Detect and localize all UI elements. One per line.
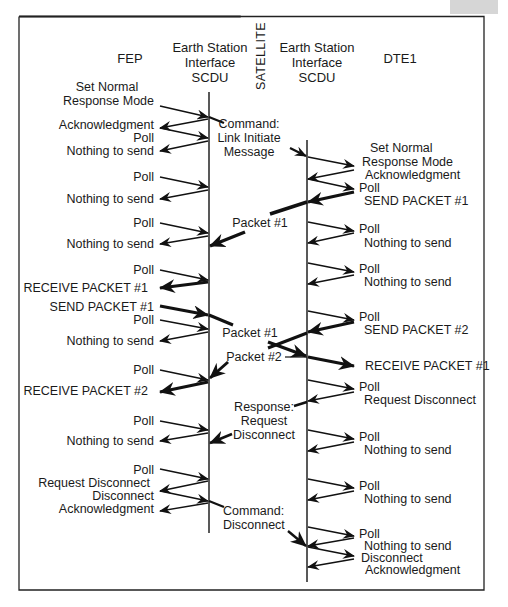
left-msg-nothing: Nothing to send [20, 434, 154, 448]
right-msg-nothing: Nothing to send [364, 443, 484, 457]
header-fep: FEP [100, 51, 160, 66]
right-msg-poll: Poll [359, 222, 419, 236]
msg-line: Message [212, 145, 286, 159]
right-msg-nothing: Nothing to send [364, 275, 484, 289]
right-msg-request-disconnect: Request Disconnect [364, 393, 484, 407]
header-earth-station-left: Earth Station Interface SCDU [160, 40, 260, 85]
right-msg-poll: Poll [359, 262, 419, 276]
right-msg-send-packet-2: SEND PACKET #2 [364, 323, 484, 337]
header-line: Earth Station [272, 40, 362, 55]
right-msg-nothing: Nothing to send [364, 236, 484, 250]
header-satellite: SATELLITE [254, 22, 268, 90]
right-msg-acknowledgment: Acknowledgment [365, 563, 485, 577]
sat-msg-link-initiate: Command: Link Initiate Message [212, 117, 286, 159]
header-line: Interface [272, 55, 362, 70]
msg-line: Set Normal [40, 80, 154, 94]
diagram-canvas: FEP Earth Station Interface SCDU SATELLI… [0, 0, 508, 607]
right-msg-nothing: Nothing to send [364, 492, 484, 506]
msg-line: Response Mode [40, 94, 154, 108]
header-line: Earth Station [160, 40, 260, 55]
left-msg-request-disconnect: Request Disconnect [20, 476, 150, 490]
left-msg-poll: Poll [20, 263, 154, 277]
sat-msg-packet-1-up: Packet #1 [230, 216, 290, 230]
msg-line: Request [232, 414, 296, 428]
msg-line: Command: [223, 504, 293, 518]
header-line: Interface [160, 55, 260, 70]
left-msg-disconnect: Disconnect [20, 489, 154, 503]
left-msg-poll: Poll [20, 313, 154, 327]
left-msg-ack: Acknowledgment [20, 118, 154, 132]
left-msg-poll: Poll [20, 131, 154, 145]
right-msg-poll: Poll [359, 430, 419, 444]
right-msg-poll: Poll [359, 479, 419, 493]
right-msg-receive-packet-1: RECEIVE PACKET #1 [365, 359, 490, 373]
left-msg-poll: Poll [20, 170, 154, 184]
msg-line: Disconnect [232, 428, 296, 442]
sat-msg-packet-1-down: Packet #1 [220, 326, 280, 340]
msg-line: Response: [232, 400, 296, 414]
sat-msg-command-disconnect: Command: Disconnect [223, 504, 293, 532]
left-msg-poll: Poll [20, 463, 154, 477]
left-msg-poll: Poll [20, 363, 154, 377]
left-msg-send-packet-1: SEND PACKET #1 [20, 300, 154, 314]
header-earth-station-right: Earth Station Interface SCDU [272, 40, 362, 85]
left-msg-receive-packet-1: RECEIVE PACKET #1 [20, 281, 148, 295]
left-msg-nothing: Nothing to send [20, 334, 154, 348]
left-msg-poll: Poll [20, 414, 154, 428]
right-msg-ack: Acknowledgment [365, 168, 485, 182]
header-line: SCDU [272, 70, 362, 85]
right-msg-poll: Poll [359, 310, 419, 324]
right-msg-send-packet-1: SEND PACKET #1 [364, 194, 484, 208]
right-msg-poll: Poll [359, 380, 419, 394]
msg-line: Link Initiate [212, 131, 286, 145]
msg-line: Disconnect [223, 518, 293, 532]
msg-line: Command: [212, 117, 286, 131]
sat-msg-packet-2: Packet #2 [224, 350, 284, 364]
left-msg-poll: Poll [20, 216, 154, 230]
sat-msg-request-disconnect: Response: Request Disconnect [232, 400, 296, 442]
left-msg-set-normal: Set Normal Response Mode [40, 80, 154, 108]
header-dte1: DTE1 [370, 51, 430, 66]
left-msg-nothing: Nothing to send [20, 144, 154, 158]
left-msg-nothing: Nothing to send [20, 192, 154, 206]
header-line: SCDU [160, 70, 260, 85]
right-msg-response-mode: Response Mode [362, 155, 482, 169]
left-msg-nothing: Nothing to send [20, 237, 154, 251]
left-msg-acknowledgment: Acknowledgment [20, 502, 154, 516]
left-msg-receive-packet-2: RECEIVE PACKET #2 [20, 384, 148, 398]
right-msg-set-normal: Set Normal [370, 141, 480, 155]
right-msg-poll: Poll [359, 181, 419, 195]
